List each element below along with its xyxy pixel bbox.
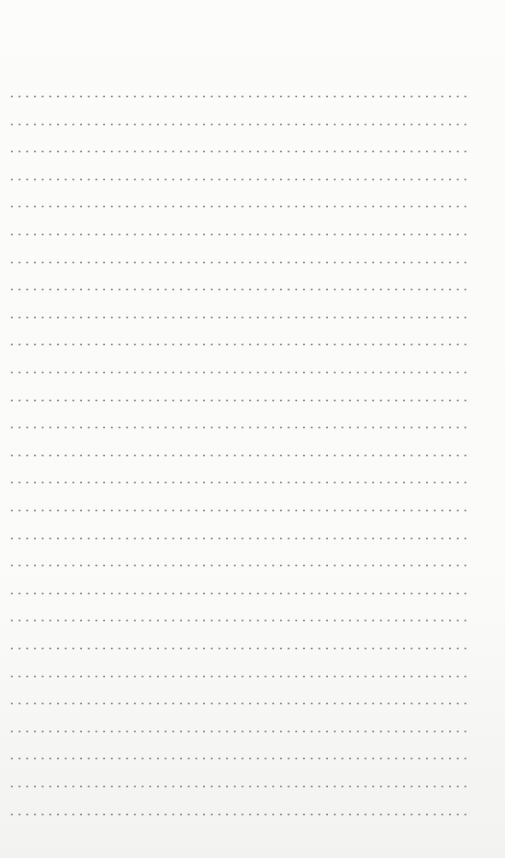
dotted-line [8, 261, 470, 264]
dotted-line [8, 178, 470, 181]
dotted-line [8, 343, 470, 346]
dotted-line [8, 785, 470, 788]
dotted-line [8, 757, 470, 760]
dotted-line [8, 288, 470, 291]
dotted-line [8, 702, 470, 705]
dotted-line [8, 619, 470, 622]
dotted-line [8, 730, 470, 733]
dotted-line [8, 454, 470, 457]
dotted-line [8, 399, 470, 402]
dotted-line [8, 205, 470, 208]
dotted-line [8, 150, 470, 153]
dotted-line [8, 675, 470, 678]
dotted-line [8, 316, 470, 319]
dotted-line [8, 95, 470, 98]
dotted-line [8, 509, 470, 512]
dotted-line [8, 233, 470, 236]
dotted-line [8, 123, 470, 126]
dotted-lines-container [0, 0, 505, 858]
dotted-line [8, 592, 470, 595]
dotted-line [8, 647, 470, 650]
dotted-line [8, 813, 470, 816]
dotted-line [8, 537, 470, 540]
dotted-line [8, 426, 470, 429]
dotted-line [8, 371, 470, 374]
dotted-line [8, 564, 470, 567]
notebook-page [0, 0, 505, 858]
dotted-line [8, 481, 470, 484]
